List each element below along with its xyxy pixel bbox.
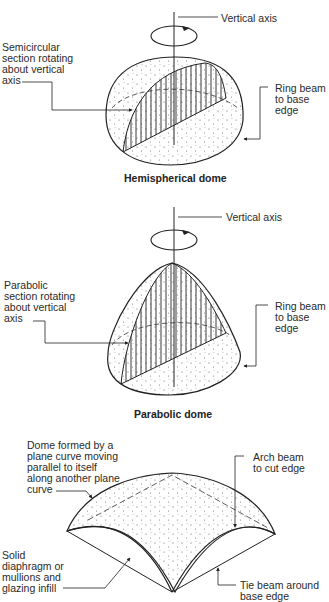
para-caption: Parabolic dome: [134, 408, 212, 420]
para-section-label: Parabolic section rotating about vertica…: [4, 280, 75, 324]
hemi-caption: Hemispherical dome: [124, 172, 227, 184]
arch-beam-label: Arch beam to cut edge: [253, 452, 305, 474]
hemi-ring-label: Ring beam to base edge: [275, 83, 326, 116]
translational-dome-label: Dome formed by a plane curve moving para…: [27, 440, 120, 495]
hemispherical-dome-drawing: [22, 12, 268, 165]
hemi-section-label: Semicircular section rotating about vert…: [2, 42, 73, 86]
tie-beam-label: Tie beam around base edge: [240, 580, 319, 602]
para-ring-label: Ring beam to base edge: [275, 301, 326, 334]
para-axis-label: Vertical axis: [226, 212, 282, 223]
diaphragm-label: Solid diaphragm or mullions and glazing …: [2, 550, 64, 594]
hemi-axis-label: Vertical axis: [221, 13, 277, 24]
